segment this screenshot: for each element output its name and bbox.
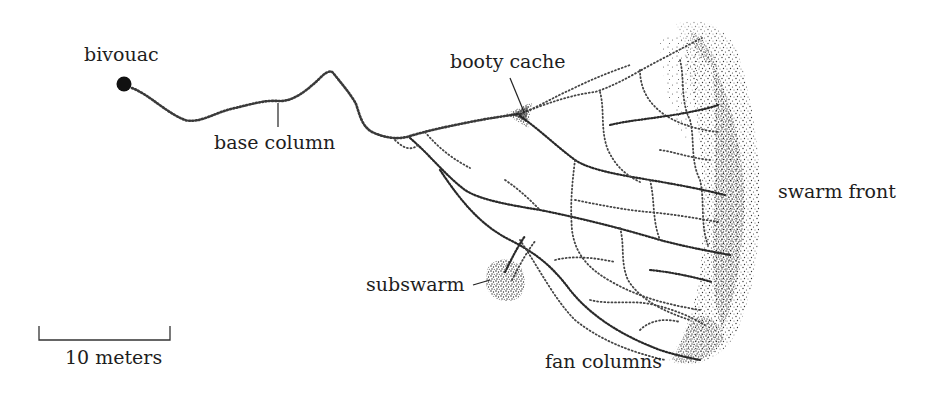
label-bivouac: bivouac xyxy=(84,43,159,65)
label-subswarm: subswarm xyxy=(366,273,465,295)
swarm-raid-diagram: bivouac base column booty cache swarm fr… xyxy=(0,0,943,396)
label-booty-cache: booty cache xyxy=(450,50,566,72)
swarm-front xyxy=(660,21,760,365)
bivouac-marker xyxy=(117,77,132,92)
label-swarm-front: swarm front xyxy=(778,180,896,202)
label-base-column: base column xyxy=(214,131,335,153)
scale-bar xyxy=(39,326,170,340)
label-fan-columns: fan columns xyxy=(545,350,662,372)
base-column xyxy=(132,72,518,139)
subswarm xyxy=(486,236,536,301)
label-scale: 10 meters xyxy=(65,346,162,368)
leader-booty-cache xyxy=(510,78,524,112)
